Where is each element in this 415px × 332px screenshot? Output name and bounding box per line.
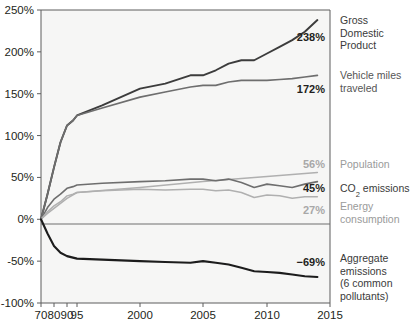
value-label-2: 56% bbox=[303, 158, 325, 170]
y-tick-label: 50% bbox=[11, 171, 34, 183]
x-tick-label: 80 bbox=[48, 309, 61, 321]
value-label-1: 172% bbox=[297, 83, 325, 95]
value-label-0: 238% bbox=[297, 31, 325, 43]
chart-figure: 250%200%150%100%50%0%-50%-100% 708090952… bbox=[0, 0, 415, 332]
x-tick-label: 70 bbox=[35, 309, 48, 321]
y-tick-label: 250% bbox=[5, 4, 34, 16]
x-tick-label: 2015 bbox=[317, 309, 343, 321]
value-label-5: −69% bbox=[297, 256, 326, 268]
y-tick-label: 200% bbox=[5, 46, 34, 58]
y-axis-ticks: 250%200%150%100%50%0%-50%-100% bbox=[1, 4, 41, 309]
y-tick-label: 0% bbox=[17, 213, 34, 225]
y-tick-label: 150% bbox=[5, 88, 34, 100]
x-tick-label: 2000 bbox=[127, 309, 153, 321]
value-label-4: 27% bbox=[303, 204, 325, 216]
x-tick-label: 95 bbox=[71, 309, 84, 321]
x-tick-label: 2010 bbox=[254, 309, 280, 321]
value-label-3: 45% bbox=[303, 182, 325, 194]
y-tick-label: -50% bbox=[7, 255, 34, 267]
x-tick-label: 2005 bbox=[190, 309, 216, 321]
y-tick-label: 100% bbox=[5, 130, 34, 142]
x-axis-ticks: 708090952000200520102015 bbox=[35, 303, 343, 321]
y-tick-label: -100% bbox=[1, 297, 34, 309]
chart-svg: 250%200%150%100%50%0%-50%-100% 708090952… bbox=[0, 0, 415, 332]
